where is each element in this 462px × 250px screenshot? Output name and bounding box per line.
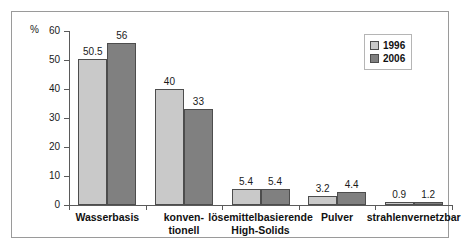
chart-frame: % 6050403020100 50.55640335.45.43.24.40.…	[11, 11, 449, 238]
bar-2006-0[interactable]	[107, 43, 136, 205]
y-axis-tick-label-30: 30	[49, 111, 60, 124]
legend-item-2006[interactable]: 2006	[370, 52, 405, 65]
bar-value-label-2006-0: 56	[102, 30, 141, 41]
bar-value-label-2006-4: 1.2	[409, 189, 448, 200]
y-axis-tick-label-20: 20	[49, 140, 60, 153]
x-axis-tick-0	[69, 205, 70, 210]
y-axis-unit-label: %	[30, 24, 39, 35]
bar-value-label-2006-2: 5.4	[256, 176, 295, 187]
legend-swatch-1996-icon	[370, 41, 379, 50]
bar-1996-0[interactable]	[78, 59, 107, 205]
y-axis-tick-60: 60	[64, 31, 69, 32]
y-axis-tick-label-60: 60	[49, 24, 60, 37]
x-axis-tick-3	[299, 205, 300, 210]
x-axis-tick-2	[222, 205, 223, 210]
bar-2006-1[interactable]	[184, 109, 213, 205]
legend-item-1996[interactable]: 1996	[370, 39, 405, 52]
y-axis-tick-label-40: 40	[49, 82, 60, 95]
bar-1996-2[interactable]	[232, 189, 261, 205]
bar-1996-3[interactable]	[308, 196, 337, 205]
y-axis-tick-50: 50	[64, 60, 69, 61]
chart-legend: 1996 2006	[364, 34, 412, 70]
bar-2006-3[interactable]	[337, 192, 366, 205]
y-axis-tick-20: 20	[64, 147, 69, 148]
bar-2006-2[interactable]	[261, 189, 290, 205]
bar-value-label-2006-1: 33	[179, 96, 218, 107]
y-axis-tick-label-0: 0	[54, 198, 60, 211]
legend-label-2006: 2006	[383, 53, 405, 64]
legend-label-1996: 1996	[383, 40, 405, 51]
y-axis-tick-30: 30	[64, 118, 69, 119]
bar-1996-4[interactable]	[385, 202, 414, 205]
x-axis-tick-4	[375, 205, 376, 210]
y-axis-tick-40: 40	[64, 89, 69, 90]
x-axis-tick-5	[452, 205, 453, 210]
bar-value-label-2006-3: 4.4	[332, 179, 371, 190]
bar-chart-plot: % 6050403020100 50.55640335.45.43.24.40.…	[12, 12, 450, 239]
y-axis-tick-10: 10	[64, 176, 69, 177]
y-axis-line	[69, 31, 70, 206]
y-axis-tick-label-50: 50	[49, 53, 60, 66]
bar-value-label-1996-1: 40	[150, 76, 189, 87]
bar-2006-4[interactable]	[414, 202, 443, 205]
x-axis-tick-1	[146, 205, 147, 210]
legend-swatch-2006-icon	[370, 54, 379, 63]
x-axis-line	[69, 205, 452, 206]
y-axis-tick-label-10: 10	[49, 169, 60, 182]
x-axis-label-4: strahlenvernetzbar	[354, 211, 462, 224]
